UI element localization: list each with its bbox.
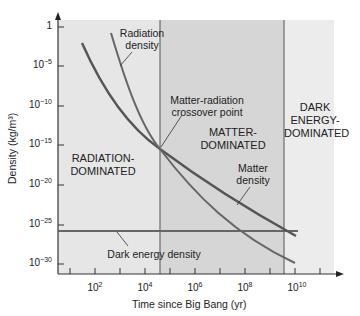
x-axis-title: Time since Big Bang (yr) bbox=[132, 298, 247, 310]
crossover-point-label: Matter-radiation crossover point bbox=[162, 94, 252, 118]
x-tick-label-1: 104 bbox=[130, 282, 160, 293]
chart-plot-area bbox=[0, 0, 360, 316]
x-tick-label-3: 108 bbox=[230, 282, 260, 293]
radiation-dominated-label: RADIATION- DOMINATED bbox=[68, 152, 138, 178]
y-tick-label-4: 10−20 bbox=[16, 178, 52, 189]
radiation-dominated-region bbox=[58, 20, 160, 274]
y-tick-label-0: 1 bbox=[16, 20, 52, 31]
x-axis-arrow-icon bbox=[336, 271, 344, 277]
x-tick-label-2: 106 bbox=[180, 282, 210, 293]
matter-dominated-label: MATTER- DOMINATED bbox=[198, 126, 268, 152]
y-axis-arrow-icon bbox=[55, 12, 61, 20]
y-tick-label-3: 10−15 bbox=[16, 138, 52, 149]
x-tick-label-4: 1010 bbox=[282, 282, 312, 293]
dark-energy-density-label: Dark energy density bbox=[102, 248, 206, 260]
density-chart: 1 10−5 10−10 10−15 10−20 10−25 10−30 102… bbox=[0, 0, 360, 316]
y-tick-label-6: 10−30 bbox=[16, 257, 52, 268]
dark-energy-dominated-label: DARK ENERGY- DOMINATED bbox=[284, 101, 346, 140]
radiation-density-label: Radiation density bbox=[117, 27, 167, 51]
x-tick-label-0: 102 bbox=[80, 282, 110, 293]
y-tick-label-2: 10−10 bbox=[16, 99, 52, 110]
y-tick-label-5: 10−25 bbox=[16, 218, 52, 229]
y-tick-label-1: 10−5 bbox=[16, 59, 52, 70]
matter-density-label: Matter density bbox=[228, 162, 278, 186]
dark-energy-dominated-region bbox=[284, 20, 334, 274]
y-axis-title: Density (kg/m³) bbox=[6, 104, 18, 184]
